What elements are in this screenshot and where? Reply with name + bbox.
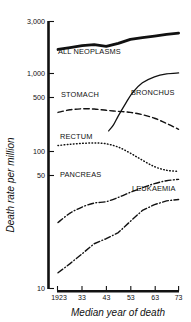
x-tick-label-43: 43 <box>103 294 111 301</box>
mortality-log-line-chart: 3,000 1,000 500 100 50 10 1923 33 43 53 … <box>0 0 191 322</box>
x-axis-title: Median year of death <box>71 307 165 318</box>
y-tick-label-100: 100 <box>33 147 45 156</box>
series-label-all-neoplasms: ALL NEOPLASMS <box>58 47 121 56</box>
series-label-rectum: RECTUM <box>60 132 93 141</box>
y-tick-label-500: 500 <box>33 93 45 102</box>
y-tick-label-1000: 1,000 <box>27 69 45 78</box>
x-tick-label-33: 33 <box>78 294 86 301</box>
y-tick-label-10: 10 <box>37 284 45 293</box>
chart-figure: 3,000 1,000 500 100 50 10 1923 33 43 53 … <box>0 0 191 322</box>
x-tick-label-73: 73 <box>175 294 183 301</box>
x-tick-label-53: 53 <box>127 294 135 301</box>
series-label-pancreas: PANCREAS <box>60 170 101 179</box>
series-label-stomach: STOMACH <box>61 90 99 99</box>
series-label-bronchus: BRONCHUS <box>131 88 175 97</box>
y-axis-title: Death rate per million <box>5 137 16 232</box>
y-tick-label-50: 50 <box>37 171 45 180</box>
x-tick-label-63: 63 <box>151 294 159 301</box>
y-tick-label-3000: 3,000 <box>27 17 45 26</box>
series-label-leukaemia: LEUKAEMIA <box>132 184 176 193</box>
x-tick-label-1923: 1923 <box>51 294 67 301</box>
